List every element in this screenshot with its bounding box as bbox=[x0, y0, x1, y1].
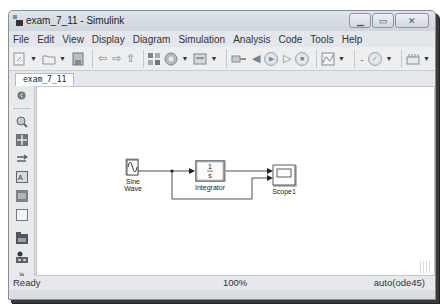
image-button[interactable] bbox=[15, 189, 28, 202]
zoom-icon bbox=[16, 116, 28, 128]
menu-analysis[interactable]: Analysis bbox=[233, 34, 270, 45]
step-back-icon: ◀ bbox=[252, 52, 260, 65]
subsystem-button[interactable] bbox=[15, 250, 28, 263]
arrow-head-icon bbox=[267, 175, 273, 181]
fit-view-button[interactable] bbox=[15, 133, 28, 146]
main-area: A » bbox=[9, 86, 435, 276]
scope1-label: Scope1 bbox=[267, 188, 301, 195]
stop-icon: ■ bbox=[300, 55, 304, 62]
model-settings-dropdown[interactable]: ▼ bbox=[181, 51, 188, 67]
status-text: Ready bbox=[13, 277, 40, 288]
toolbar-separator bbox=[354, 50, 355, 68]
toolbar: ▼ ▼ ⇦ ⇨ ⇧ ▼ ▼ ◀ ▶ ▷ ■ bbox=[9, 47, 435, 71]
zoom-level: 100% bbox=[223, 277, 247, 288]
tab-row: exam_7_11 bbox=[9, 71, 435, 86]
model-settings-button[interactable] bbox=[164, 51, 178, 67]
back-button[interactable]: ⇦ bbox=[97, 51, 108, 67]
model-browser-button[interactable] bbox=[15, 231, 28, 244]
maximize-icon: ▭ bbox=[379, 16, 388, 26]
library-browser-button[interactable] bbox=[147, 51, 161, 67]
arrow-head-icon bbox=[189, 168, 195, 174]
stop-button[interactable]: ■ bbox=[295, 51, 309, 67]
scope-dropdown[interactable]: ▼ bbox=[338, 51, 345, 67]
menu-code[interactable]: Code bbox=[278, 34, 302, 45]
block-palette: A » bbox=[9, 86, 35, 276]
step-forward-button[interactable]: ▷ bbox=[281, 51, 292, 67]
subsystem-icon bbox=[16, 251, 28, 263]
toolbar-separator bbox=[316, 50, 317, 68]
simulink-app-icon bbox=[13, 15, 23, 26]
arrow-icon bbox=[16, 154, 28, 164]
scope-button[interactable] bbox=[321, 51, 335, 67]
annotation-icon: A bbox=[16, 171, 28, 183]
branch-point bbox=[170, 169, 173, 172]
up-icon: ⇧ bbox=[126, 52, 135, 65]
diagram-svg: 1 s bbox=[37, 87, 436, 277]
menu-help[interactable]: Help bbox=[342, 34, 363, 45]
new-model-icon bbox=[13, 52, 27, 66]
model-explorer-dropdown[interactable]: ▼ bbox=[210, 51, 217, 67]
arrow-head-icon bbox=[267, 168, 273, 174]
menu-view[interactable]: View bbox=[62, 34, 84, 45]
build-icon bbox=[406, 52, 420, 66]
minimize-button[interactable]: ▁ bbox=[349, 13, 371, 28]
back-icon: ⇦ bbox=[98, 52, 107, 65]
open-button[interactable] bbox=[42, 51, 56, 67]
step-forward-icon: ▷ bbox=[283, 52, 291, 65]
diagram-canvas[interactable]: 1 s Sine Wave Integrator Scope1 bbox=[36, 86, 435, 276]
run-button[interactable]: ▶ bbox=[264, 51, 278, 67]
hide-explorer-button[interactable] bbox=[15, 89, 28, 102]
status-bar: Ready 100% auto(ode45) bbox=[9, 276, 435, 290]
chevron-down-icon: ▼ bbox=[181, 55, 188, 62]
menu-file[interactable]: File bbox=[13, 34, 29, 45]
canvas-corner-grip bbox=[420, 261, 432, 273]
library-browser-icon bbox=[147, 52, 161, 66]
save-icon bbox=[71, 52, 85, 66]
open-dropdown[interactable]: ▼ bbox=[59, 51, 66, 67]
check-dropdown[interactable]: ▼ bbox=[385, 51, 392, 67]
chevron-down-icon: ▼ bbox=[385, 55, 392, 62]
scope-block bbox=[273, 165, 297, 187]
menu-tools[interactable]: Tools bbox=[310, 34, 333, 45]
model-explorer-button[interactable] bbox=[193, 51, 207, 67]
menu-bar: File Edit View Display Diagram Simulatio… bbox=[9, 31, 435, 47]
new-model-dropdown[interactable]: ▼ bbox=[30, 51, 37, 67]
chevron-down-icon: ▼ bbox=[210, 55, 217, 62]
chevron-down-icon: ▼ bbox=[59, 55, 66, 62]
close-button[interactable]: ✕ bbox=[395, 13, 429, 28]
build-button[interactable] bbox=[406, 51, 420, 67]
scope-icon bbox=[321, 52, 335, 66]
forward-button[interactable]: ⇨ bbox=[111, 51, 122, 67]
arrow-button[interactable] bbox=[15, 152, 28, 165]
title-bar: exam_7_11 - Simulink ▁ ▭ ✕ bbox=[9, 11, 435, 31]
menu-display[interactable]: Display bbox=[92, 34, 125, 45]
fit-view-icon bbox=[16, 134, 28, 146]
update-icon bbox=[231, 52, 247, 66]
run-icon: ▶ bbox=[269, 55, 274, 63]
step-back-button[interactable]: ◀ bbox=[250, 51, 261, 67]
menu-edit[interactable]: Edit bbox=[37, 34, 54, 45]
build-dropdown[interactable]: ▼ bbox=[423, 51, 430, 67]
zoom-button[interactable] bbox=[15, 115, 28, 128]
solver-indicator[interactable]: auto(ode45) bbox=[374, 277, 425, 288]
new-model-button[interactable] bbox=[13, 51, 27, 67]
annotation-button[interactable]: A bbox=[15, 170, 28, 183]
save-button[interactable] bbox=[71, 51, 85, 67]
stop-time-field[interactable]: - bbox=[359, 51, 366, 67]
sine-wave-label: Sine Wave bbox=[119, 178, 147, 192]
check-button[interactable]: ✓ bbox=[368, 51, 382, 67]
maximize-button[interactable]: ▭ bbox=[372, 13, 394, 28]
window-title: exam_7_11 - Simulink bbox=[26, 15, 124, 26]
up-button[interactable]: ⇧ bbox=[125, 51, 136, 67]
menu-diagram[interactable]: Diagram bbox=[133, 34, 171, 45]
palette-separator bbox=[13, 108, 31, 109]
integrator-denominator: s bbox=[208, 172, 212, 179]
update-diagram-button[interactable] bbox=[231, 51, 247, 67]
menu-simulation[interactable]: Simulation bbox=[178, 34, 225, 45]
tab-exam-7-11[interactable]: exam_7_11 bbox=[15, 73, 74, 86]
svg-text:A: A bbox=[18, 174, 23, 181]
area-button[interactable] bbox=[15, 208, 28, 221]
stop-time-dash: - bbox=[360, 53, 364, 65]
chevron-down-icon: ▼ bbox=[338, 55, 345, 62]
chevron-down-icon: ▼ bbox=[30, 55, 37, 62]
